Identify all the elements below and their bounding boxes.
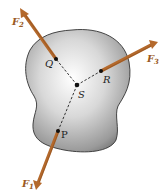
label-p: P	[61, 129, 68, 140]
label-f2: F2	[11, 16, 24, 29]
label-s: S	[78, 89, 85, 100]
point-r	[99, 69, 103, 73]
force-diagram: Q R S P F2 F3 F1	[0, 0, 168, 193]
point-p	[56, 129, 60, 133]
arrowhead-icon	[33, 180, 42, 190]
label-q: Q	[45, 58, 53, 69]
label-r: R	[102, 74, 111, 85]
label-f1: F1	[21, 178, 34, 191]
point-s	[75, 83, 80, 88]
point-q	[54, 57, 58, 61]
label-f3: F3	[146, 53, 159, 66]
